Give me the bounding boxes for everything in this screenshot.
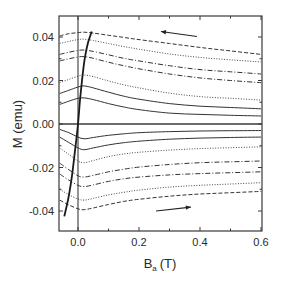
x-axis-label-sub: a [152,264,157,273]
magnetization-chart: 0.00.20.40.6 0.040.020.00-0.02-0.04 Ba(T… [0,0,282,283]
y-tick-label: 0.00 [33,118,54,130]
y-tick-label: 0.02 [33,75,54,87]
curve-upper-7 [60,98,261,116]
y-axis-label: M (emu) [10,100,25,148]
x-axis-label-main: B [144,256,153,271]
reference-lines [59,16,262,231]
curve-upper-6 [60,86,261,109]
data-curves [60,32,261,210]
y-tick-label: -0.02 [29,162,54,174]
x-axis-label-unit: (T) [160,256,177,271]
x-tick-label: 0.4 [192,236,207,248]
direction-arrows [156,30,197,211]
x-axis-label: Ba(T) [144,256,177,273]
y-tick-label: 0.04 [33,31,54,43]
arrow-left-icon [161,30,197,36]
curve-lower-3 [60,147,261,163]
arrow-right-icon [156,205,191,211]
y-tick-label: -0.04 [29,205,54,217]
x-tick-label: 0.0 [70,236,85,248]
curve-upper-3 [60,50,261,74]
x-tick-label: 0.2 [131,236,146,248]
curve-lower-7 [60,191,261,209]
curve-upper-4 [60,57,261,83]
curve-lower-4 [60,161,261,177]
chart-canvas: 0.00.20.40.6 0.040.020.00-0.02-0.04 Ba(T… [0,0,282,283]
x-tick-label: 0.6 [253,236,268,248]
curve-upper-5 [60,75,261,100]
